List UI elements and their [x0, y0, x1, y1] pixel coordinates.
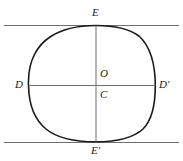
label-point-e: E: [92, 7, 99, 18]
oval-curve: [28, 26, 155, 142]
figure-canvas: [0, 0, 183, 161]
label-point-e-prime: E': [91, 145, 100, 156]
geometry-figure: E E' D D' O C: [0, 0, 183, 161]
label-point-o: O: [100, 68, 108, 79]
label-point-d-prime: D': [159, 79, 169, 90]
label-point-d: D: [15, 79, 23, 90]
label-point-c: C: [100, 89, 107, 100]
